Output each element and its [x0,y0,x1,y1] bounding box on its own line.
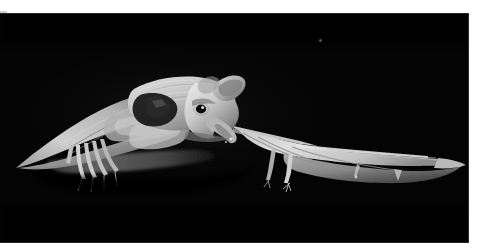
light-speck-icon [319,39,322,42]
screenshot-root: Black and white flash photograph of two … [0,0,482,252]
plate-edge-right [468,13,469,243]
photograph [0,13,469,243]
photo-alt-text: Black and white flash photograph of two … [0,0,1,1]
bats-in-flight-illustration [0,13,469,243]
plate-edge-bottom [0,242,469,243]
plate-edge-top [0,13,469,14]
